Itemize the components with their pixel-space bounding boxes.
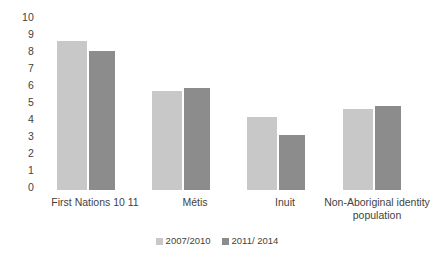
y-axis: 109876543210 xyxy=(0,12,34,198)
bar-group xyxy=(57,20,115,190)
legend-label: 2011/ 2014 xyxy=(232,236,279,246)
bar-series-2007-2010[interactable] xyxy=(57,41,87,190)
bar-series-2007-2010[interactable] xyxy=(343,109,373,190)
y-tick-label: 10 xyxy=(0,12,34,23)
bar-group xyxy=(152,20,210,190)
y-tick-label: 1 xyxy=(0,165,34,176)
y-tick-label: 0 xyxy=(0,182,34,193)
y-tick-label: 3 xyxy=(0,131,34,142)
bar-group xyxy=(343,20,401,190)
y-tick-label: 9 xyxy=(0,29,34,40)
bar-chart-figure: 109876543210 2007/20102011/ 2014 First N… xyxy=(0,0,434,262)
legend-swatch-2011-2014 xyxy=(222,238,229,245)
bar-series-2007-2010[interactable] xyxy=(152,91,182,190)
y-tick-label: 7 xyxy=(0,63,34,74)
x-category-label: Non-Aboriginal identity population xyxy=(320,196,434,221)
bar-pair xyxy=(343,20,401,190)
bar-pair xyxy=(152,20,210,190)
y-tick-label: 8 xyxy=(0,46,34,57)
y-tick-label: 2 xyxy=(0,148,34,159)
bar-series-2011-2014[interactable] xyxy=(279,135,305,190)
bar-pair xyxy=(247,20,305,190)
bar-series-2011-2014[interactable] xyxy=(184,88,210,190)
legend-item[interactable]: 2007/2010 xyxy=(156,236,211,246)
bar-series-2011-2014[interactable] xyxy=(89,51,115,190)
bar-series-2007-2010[interactable] xyxy=(247,117,277,190)
bar-series-2011-2014[interactable] xyxy=(375,106,401,190)
legend-item[interactable]: 2011/ 2014 xyxy=(222,236,279,246)
bar-pair xyxy=(57,20,115,190)
bar-group xyxy=(247,20,305,190)
chart-legend: 2007/20102011/ 2014 xyxy=(0,236,434,246)
y-tick-label: 6 xyxy=(0,80,34,91)
legend-label: 2007/2010 xyxy=(166,236,211,246)
y-tick-label: 5 xyxy=(0,97,34,108)
y-tick-label: 4 xyxy=(0,114,34,125)
legend-swatch-2007-2010 xyxy=(156,238,163,245)
plot-area xyxy=(40,20,420,190)
